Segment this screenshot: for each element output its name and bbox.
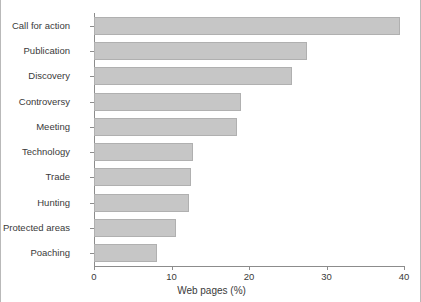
y-axis-tick-label: Publication: [0, 42, 70, 60]
bar-row: Publication: [94, 42, 404, 60]
bar-row: Hunting: [94, 194, 404, 212]
bar-row: Call for action: [94, 17, 404, 35]
bar: [94, 244, 157, 262]
x-axis-tick: [94, 266, 95, 270]
y-axis-tick-label: Hunting: [0, 194, 70, 212]
bar: [94, 118, 237, 136]
y-axis-tick: [90, 177, 94, 178]
y-axis-tick: [90, 152, 94, 153]
y-axis-tick: [90, 26, 94, 27]
bar-row: Protected areas: [94, 219, 404, 237]
x-axis-tick-label: 30: [312, 271, 342, 282]
x-axis-tick: [249, 266, 250, 270]
x-axis-tick-label: 0: [79, 271, 109, 282]
bar: [94, 219, 176, 237]
bar-row: Trade: [94, 168, 404, 186]
x-axis-tick: [327, 266, 328, 270]
y-axis-tick-label: Protected areas: [0, 219, 70, 237]
y-axis-tick-label: Controversy: [0, 93, 70, 111]
x-axis-title: Web pages (%): [1, 285, 421, 296]
y-axis-tick: [90, 228, 94, 229]
bar-chart-figure: Call for actionPublicationDiscoveryContr…: [0, 0, 421, 302]
y-axis-tick: [90, 102, 94, 103]
bar: [94, 194, 189, 212]
bar-row: Meeting: [94, 118, 404, 136]
y-axis-tick-label: Meeting: [0, 118, 70, 136]
bar: [94, 17, 400, 35]
bar: [94, 143, 193, 161]
y-axis-tick: [90, 76, 94, 77]
bar: [94, 42, 307, 60]
y-axis-tick-label: Discovery: [0, 67, 70, 85]
x-axis-tick: [172, 266, 173, 270]
bar-row: Technology: [94, 143, 404, 161]
y-axis-tick-label: Technology: [0, 143, 70, 161]
x-axis-tick-label: 10: [157, 271, 187, 282]
y-axis-tick: [90, 203, 94, 204]
y-axis-tick: [90, 51, 94, 52]
bar: [94, 168, 191, 186]
y-axis-tick-label: Trade: [0, 168, 70, 186]
y-axis-tick-label: Call for action: [0, 17, 70, 35]
x-axis-tick: [404, 266, 405, 270]
x-axis-tick-label: 40: [389, 271, 419, 282]
y-axis-tick: [90, 253, 94, 254]
bar-row: Poaching: [94, 244, 404, 262]
y-axis-tick-label: Poaching: [0, 244, 70, 262]
bar-row: Controversy: [94, 93, 404, 111]
y-axis-tick: [90, 127, 94, 128]
bar: [94, 93, 241, 111]
bar-row: Discovery: [94, 67, 404, 85]
bar: [94, 67, 292, 85]
x-axis-tick-label: 20: [234, 271, 264, 282]
